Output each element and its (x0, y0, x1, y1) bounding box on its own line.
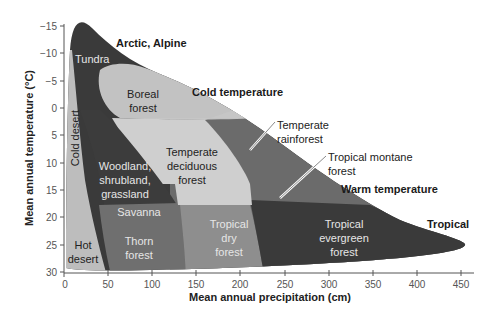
y-tick-label: 10 (46, 158, 58, 169)
label-temperate-deciduous-3: forest (178, 174, 206, 186)
label-tropical-dry-1: Tropical (210, 218, 249, 230)
label-tropical-evergreen-1: Tropical (325, 218, 364, 230)
x-tick-label: 300 (321, 279, 338, 290)
label-cold-desert: Cold desert (69, 110, 81, 166)
y-tick-label: 20 (46, 212, 58, 223)
x-tick-label: 0 (62, 279, 68, 290)
y-tick-label: 15 (46, 185, 58, 196)
label-boreal-2: forest (129, 102, 157, 114)
zone-label-warm: Warm temperature (341, 183, 438, 195)
zone-label-tropical: Tropical (427, 218, 469, 230)
x-tick-label: 200 (232, 279, 249, 290)
label-tropical-evergreen-3: forest (330, 246, 358, 258)
x-axis: 0 50 100 150 200 250 300 350 400 450 Mea… (62, 270, 474, 303)
y-ticks (60, 26, 64, 272)
zone-label-cold: Cold temperature (192, 86, 283, 98)
biome-regions (60, 10, 480, 280)
label-tropical-montane-1: Tropical montane (328, 151, 413, 163)
zone-label-arctic: Arctic, Alpine (116, 37, 187, 49)
y-tick-label: 25 (46, 240, 58, 251)
label-tundra: Tundra (75, 53, 110, 65)
label-thorn-2: forest (125, 249, 153, 261)
y-tick-label: 5 (51, 130, 57, 141)
x-tick-label: 350 (365, 279, 382, 290)
label-tropical-dry-2: dry (221, 232, 237, 244)
y-tick-label: −5 (46, 76, 58, 87)
x-tick-label: 50 (102, 279, 114, 290)
label-temperate-deciduous-1: Temperate (166, 146, 218, 158)
y-tick-label: 0 (51, 103, 57, 114)
x-tick-label: 100 (144, 279, 161, 290)
label-woodland-3: grassland (101, 188, 149, 200)
label-temperate-rainforest-1: Temperate (277, 119, 329, 131)
label-savanna: Savanna (117, 206, 161, 218)
y-axis-title: Mean annual temperature (°C) (23, 70, 35, 226)
y-tick-label: 30 (46, 267, 58, 278)
biome-diagram: −15 −10 −5 0 5 10 15 20 25 30 Mean annua… (0, 0, 498, 321)
y-tick-label: −15 (40, 21, 57, 32)
label-hot-desert-1: Hot (74, 239, 91, 251)
label-boreal-1: Boreal (127, 88, 159, 100)
label-tropical-evergreen-2: evergreen (319, 232, 369, 244)
x-axis-title: Mean annual precipitation (cm) (189, 291, 351, 303)
y-axis: −15 −10 −5 0 5 10 15 20 25 30 Mean annua… (23, 21, 64, 278)
x-tick-label: 150 (188, 279, 205, 290)
label-temperate-rainforest-2: rainforest (277, 133, 323, 145)
y-tick-label: −10 (40, 48, 57, 59)
x-tick-label: 450 (453, 279, 470, 290)
label-woodland-2: shrubland, (99, 174, 150, 186)
label-thorn-1: Thorn (125, 235, 154, 247)
temperate-deciduous-lower (175, 184, 252, 205)
x-tick-label: 250 (277, 279, 294, 290)
label-tropical-montane-2: forest (328, 165, 356, 177)
label-woodland-1: Woodland, (99, 160, 151, 172)
label-tropical-dry-3: forest (215, 246, 243, 258)
label-temperate-deciduous-2: deciduous (167, 160, 218, 172)
label-hot-desert-2: desert (68, 253, 99, 265)
x-tick-label: 400 (409, 279, 426, 290)
